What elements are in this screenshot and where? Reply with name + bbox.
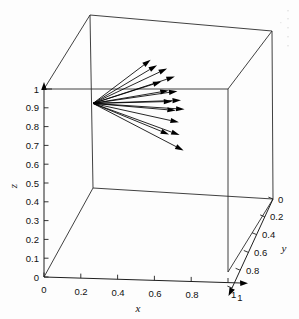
z-tick-label-1: 1 xyxy=(34,84,39,95)
vector-arrowhead xyxy=(164,99,173,104)
vector-arrowhead xyxy=(170,118,179,123)
cube-wireframe xyxy=(44,15,273,277)
y-tick-label-0.2: 0.2 xyxy=(270,211,283,222)
vector-arrowhead xyxy=(158,69,167,75)
vector-arrowhead xyxy=(148,65,157,72)
x-tick-label-0.2: 0.2 xyxy=(74,286,87,297)
y-axis-group: 0 0.2 0.4 0.6 0.8 1 y xyxy=(227,194,286,300)
cube-edge-back-bottom xyxy=(93,188,273,199)
x-tick-label-0: 0 xyxy=(41,284,46,295)
vector-arrowhead xyxy=(166,77,175,82)
plot-canvas: 0 0.1 0.2 0.3 0.4 0.5 0.6 0.7 0.8 0.9 1 … xyxy=(0,0,299,319)
figure-3d-vector-plot: 0 0.1 0.2 0.3 0.4 0.5 0.6 0.7 0.8 0.9 1 … xyxy=(0,0,299,319)
cube-edge-back-right-vertical xyxy=(272,31,273,199)
x-tick-label-0.4: 0.4 xyxy=(111,287,124,298)
vector-arrowhead xyxy=(171,130,180,135)
scan-noise xyxy=(280,10,289,46)
z-axis-ticks xyxy=(44,89,52,277)
vector-field xyxy=(93,60,185,151)
z-axis-title: z xyxy=(7,183,19,189)
z-tick-label-0: 0 xyxy=(34,272,39,283)
x-axis-arrowhead xyxy=(240,280,248,286)
z-tick-label-0.9: 0.9 xyxy=(26,102,39,113)
x-tick-label-0.6: 0.6 xyxy=(148,288,161,299)
vector-arrowhead xyxy=(142,60,150,67)
z-axis-group: 0 0.1 0.2 0.3 0.4 0.5 0.6 0.7 0.8 0.9 1 … xyxy=(7,82,52,283)
vector-shaft xyxy=(93,79,167,103)
y-tick-label-0: 0 xyxy=(278,194,283,205)
vector-shaft xyxy=(93,65,144,103)
z-tick-label-0.5: 0.5 xyxy=(26,178,39,189)
x-axis-title: x xyxy=(135,302,141,314)
cube-edge-floor-left-diagonal xyxy=(44,188,93,277)
z-tick-label-0.8: 0.8 xyxy=(26,121,39,132)
z-tick-label-0.2: 0.2 xyxy=(26,234,39,245)
y-tick-label-0.6: 0.6 xyxy=(254,247,267,258)
cube-top-face xyxy=(44,15,272,89)
x-tick-label-1: 1 xyxy=(237,292,242,303)
vector-arrowhead xyxy=(169,90,178,95)
x-axis-line xyxy=(44,277,241,283)
vector-arrowhead xyxy=(175,144,184,150)
cube-edge-back-left-vertical xyxy=(90,15,93,188)
z-tick-label-0.3: 0.3 xyxy=(26,215,39,226)
vector-arrowhead xyxy=(172,98,181,103)
vector-arrowhead xyxy=(176,106,185,111)
x-axis-tick-labels: 0 0.2 0.4 0.6 0.8 1 xyxy=(41,284,242,303)
z-tick-label-0.7: 0.7 xyxy=(26,140,39,151)
y-tick-label-0.4: 0.4 xyxy=(262,229,275,240)
x-axis-group: 0 0.2 0.4 0.6 0.8 1 x xyxy=(41,273,248,315)
y-axis-tick-labels: 0 0.2 0.4 0.6 0.8 1 xyxy=(231,194,283,300)
y-tick-label-1: 1 xyxy=(231,289,236,300)
z-axis-tick-labels: 0 0.1 0.2 0.3 0.4 0.5 0.6 0.7 0.8 0.9 1 xyxy=(26,84,39,283)
x-tick-label-0.8: 0.8 xyxy=(185,289,198,300)
y-tick-label-0.8: 0.8 xyxy=(246,265,259,276)
z-tick-label-0.6: 0.6 xyxy=(26,159,39,170)
z-tick-label-0.1: 0.1 xyxy=(26,253,39,264)
y-axis-title: y xyxy=(281,242,287,254)
z-tick-label-0.4: 0.4 xyxy=(26,196,39,207)
